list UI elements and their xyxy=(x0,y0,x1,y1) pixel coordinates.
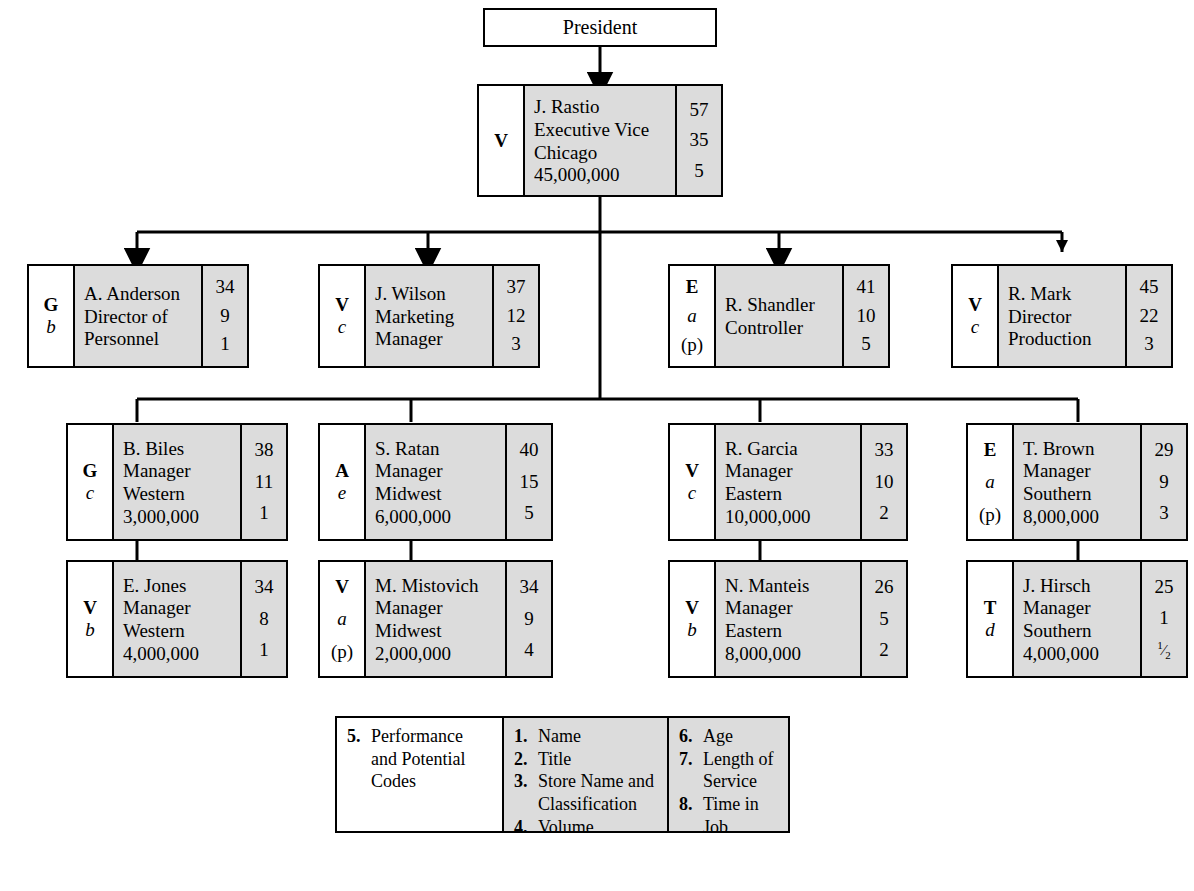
potential-code: b xyxy=(687,619,697,641)
time-in-job: 5 xyxy=(694,161,704,182)
employee-title: Manager xyxy=(375,597,505,620)
store-name: Production xyxy=(1008,328,1125,351)
employee-name: E. Jones xyxy=(123,575,240,598)
code-cell-brown: E a (p) xyxy=(968,425,1014,539)
employee-title: Director xyxy=(1008,306,1125,329)
node-ratan[interactable]: A e S. Ratan Manager Midwest 6,000,000 4… xyxy=(318,423,553,541)
node-jones[interactable]: V b E. Jones Manager Western 4,000,000 3… xyxy=(66,560,288,678)
performance-code: V xyxy=(494,130,508,152)
legend-number: 4. xyxy=(514,816,538,839)
legend-column-left: 1. Name 2. Title 3. Store Name and Class… xyxy=(504,718,669,831)
store-name: Midwest xyxy=(375,620,505,643)
code-cell-ratan: A e xyxy=(320,425,366,539)
length-of-service: 12 xyxy=(507,306,526,327)
metrics-cell-rastio: 57 35 5 xyxy=(675,86,721,195)
node-manteis[interactable]: V b N. Manteis Manager Eastern 8,000,000… xyxy=(668,560,908,678)
employee-name: A. Anderson xyxy=(84,283,201,306)
legend-item: 8. Time in Job xyxy=(679,793,780,838)
node-mistovich[interactable]: V a (p) M. Mistovich Manager Midwest 2,0… xyxy=(318,560,553,678)
employee-title: Manager xyxy=(1023,597,1140,620)
performance-code: E xyxy=(686,276,699,298)
node-wilson[interactable]: V c J. Wilson Marketing Manager 37 12 3 xyxy=(318,264,540,368)
info-cell-jones: E. Jones Manager Western 4,000,000 xyxy=(114,562,240,676)
potential-code: b xyxy=(46,316,56,338)
employee-title: Manager xyxy=(123,460,240,483)
node-mark[interactable]: V c R. Mark Director Production 45 22 3 xyxy=(951,264,1173,368)
info-cell-shandler: R. Shandler Controller xyxy=(716,266,842,366)
volume: 8,000,000 xyxy=(725,643,860,666)
employee-name: B. Biles xyxy=(123,438,240,461)
node-garcia[interactable]: V c R. Garcia Manager Eastern 10,000,000… xyxy=(668,423,908,541)
metrics-cell-brown: 29 9 3 xyxy=(1140,425,1186,539)
age: 34 xyxy=(216,277,235,298)
potential-code: c xyxy=(338,316,346,338)
legend-number: 6. xyxy=(679,725,703,748)
node-biles[interactable]: G c B. Biles Manager Western 3,000,000 3… xyxy=(66,423,288,541)
time-in-job: 3 xyxy=(1144,334,1154,355)
time-in-job: 1⁄2 xyxy=(1157,639,1171,661)
employee-name: S. Ratan xyxy=(375,438,505,461)
metrics-cell-mark: 45 22 3 xyxy=(1125,266,1171,366)
node-president[interactable]: President xyxy=(483,8,717,47)
node-anderson[interactable]: G b A. Anderson Director of Personnel 34… xyxy=(27,264,249,368)
time-in-job: 5 xyxy=(524,503,534,524)
potential-code: c xyxy=(86,482,94,504)
legend-column-right: 6. Age 7. Length of Service 8. Time in J… xyxy=(669,718,788,831)
volume: 10,000,000 xyxy=(725,506,860,529)
legend-label: Title xyxy=(538,748,659,771)
employee-title: Director of xyxy=(84,306,201,329)
code-cell-mark: V c xyxy=(953,266,999,366)
info-cell-mark: R. Mark Director Production xyxy=(999,266,1125,366)
store-name: Eastern xyxy=(725,483,860,506)
promotable-code: (p) xyxy=(979,504,1001,526)
promotable-code: (p) xyxy=(331,641,353,663)
node-rastio[interactable]: V J. Rastio Executive Vice Chicago 45,00… xyxy=(477,84,723,197)
legend-item: 5. Performance and Potential Codes xyxy=(347,725,494,793)
info-cell-ratan: S. Ratan Manager Midwest 6,000,000 xyxy=(366,425,505,539)
potential-code: e xyxy=(338,482,346,504)
store-name: Southern xyxy=(1023,483,1140,506)
length-of-service: 9 xyxy=(1159,472,1169,493)
info-cell-mistovich: M. Mistovich Manager Midwest 2,000,000 xyxy=(366,562,505,676)
time-in-job: 5 xyxy=(861,334,871,355)
age: 38 xyxy=(255,440,274,461)
volume: 8,000,000 xyxy=(1023,506,1140,529)
employee-name: T. Brown xyxy=(1023,438,1140,461)
info-cell-wilson: J. Wilson Marketing Manager xyxy=(366,266,492,366)
employee-name: N. Manteis xyxy=(725,575,860,598)
length-of-service: 35 xyxy=(690,130,709,151)
node-shandler[interactable]: E a (p) R. Shandler Controller 41 10 5 xyxy=(668,264,890,368)
time-in-job: 3 xyxy=(511,334,521,355)
legend-item: 1. Name xyxy=(514,725,659,748)
legend-label: Age xyxy=(703,725,780,748)
length-of-service: 5 xyxy=(879,609,889,630)
volume: 3,000,000 xyxy=(123,506,240,529)
legend-line-1: Length of xyxy=(703,749,773,769)
node-brown[interactable]: E a (p) T. Brown Manager Southern 8,000,… xyxy=(966,423,1188,541)
store-name: Western xyxy=(123,620,240,643)
promotable-code: (p) xyxy=(681,334,703,356)
legend-number: 5. xyxy=(347,725,371,748)
performance-code: G xyxy=(83,460,98,482)
volume: 45,000,000 xyxy=(534,164,675,187)
employee-name: J. Wilson xyxy=(375,283,492,306)
legend-number: 1. xyxy=(514,725,538,748)
length-of-service: 15 xyxy=(520,472,539,493)
store-name: Chicago xyxy=(534,142,675,165)
node-hirsch[interactable]: T d J. Hirsch Manager Southern 4,000,000… xyxy=(966,560,1188,678)
employee-title: Manager xyxy=(1023,460,1140,483)
metrics-cell-jones: 34 8 1 xyxy=(240,562,286,676)
info-cell-anderson: A. Anderson Director of Personnel xyxy=(75,266,201,366)
store-name: Manager xyxy=(375,328,492,351)
performance-code: V xyxy=(335,294,349,316)
volume: 2,000,000 xyxy=(375,643,505,666)
length-of-service: 1 xyxy=(1159,608,1169,629)
legend-number: 8. xyxy=(679,793,703,816)
age: 34 xyxy=(520,577,539,598)
time-in-job: 2 xyxy=(879,503,889,524)
performance-code: E xyxy=(984,439,997,461)
age: 34 xyxy=(255,577,274,598)
metrics-cell-hirsch: 25 1 1⁄2 xyxy=(1140,562,1186,676)
volume: 4,000,000 xyxy=(1023,643,1140,666)
employee-name: R. Shandler xyxy=(725,294,842,317)
